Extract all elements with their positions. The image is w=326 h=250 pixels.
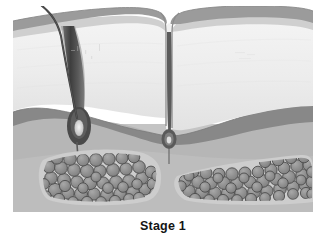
dermal-papilla bbox=[75, 120, 84, 136]
figure-caption: Stage 1 bbox=[140, 219, 186, 234]
figure-caption-row: Stage 1 bbox=[0, 216, 326, 234]
figure-root: Stage 1 bbox=[0, 0, 326, 250]
vellus-papilla bbox=[167, 137, 172, 144]
illustration-canvas bbox=[13, 6, 313, 212]
skin-cross-section-illustration bbox=[13, 6, 313, 212]
